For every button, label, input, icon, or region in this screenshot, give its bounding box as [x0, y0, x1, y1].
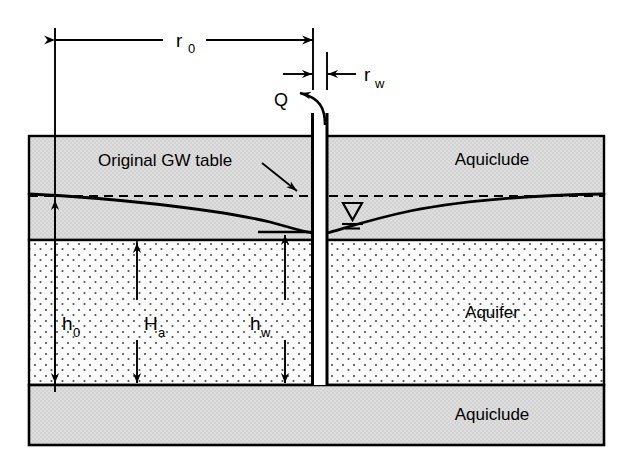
dimension-rw: r w — [283, 64, 385, 91]
dimension-rw-label: r — [364, 64, 371, 85]
pumping-well — [313, 113, 328, 386]
diagram-canvas: Aquiclude Aquifer Aquiclude — [0, 0, 642, 463]
dimension-r0-label: r — [176, 30, 183, 51]
dimension-h0-label: h — [62, 313, 73, 334]
dimension-r0-subscript: 0 — [188, 41, 195, 56]
groundwater-well-diagram: Aquiclude Aquifer Aquiclude — [0, 0, 642, 463]
dimension-h0-subscript: 0 — [73, 325, 80, 340]
horizontal-dimensions: r 0 r w — [55, 30, 385, 91]
dimension-rw-subscript: w — [374, 76, 385, 91]
layer-lower-aquiclude: Aquiclude — [29, 385, 604, 445]
dimension-Ha-label: H — [144, 313, 158, 334]
lower-aquiclude-label: Aquiclude — [455, 405, 530, 424]
original-gw-table-label: Original GW table — [98, 151, 232, 170]
aquifer-label: Aquifer — [465, 303, 519, 322]
dimension-Ha-subscript: a — [158, 325, 166, 340]
upper-aquiclude-label: Aquiclude — [455, 150, 530, 169]
well-bore-fill — [313, 113, 327, 385]
dimension-r0: r 0 — [55, 30, 313, 56]
dimension-hw-label: h — [250, 313, 261, 334]
dimension-hw-subscript: w — [260, 325, 271, 340]
discharge-label: Q — [274, 90, 288, 110]
